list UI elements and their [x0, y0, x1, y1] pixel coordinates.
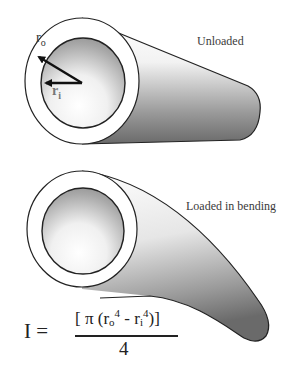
outer-radius-label: ro: [36, 30, 46, 48]
unloaded-label: Unloaded: [197, 34, 244, 49]
inner-radius-label: ri: [52, 83, 61, 101]
loaded-in-bending-label: Loaded in bending: [186, 199, 276, 214]
loaded-tube-bore: [42, 188, 124, 274]
formula-numerator: [ π (ro4 - ri4)]: [75, 307, 160, 329]
formula-denominator: 4: [119, 338, 129, 360]
numerator-minus: - r: [120, 309, 140, 328]
fraction-bar: [75, 335, 178, 337]
inner-radius-subscript: i: [58, 90, 61, 101]
moment-of-inertia-formula: I = [ π (ro4 - ri4)] 4: [20, 307, 170, 363]
formula-lhs: I =: [24, 319, 48, 344]
numerator-close: )]: [148, 309, 159, 328]
numerator-open: [ π (r: [75, 309, 109, 328]
outer-radius-subscript: o: [41, 37, 46, 48]
